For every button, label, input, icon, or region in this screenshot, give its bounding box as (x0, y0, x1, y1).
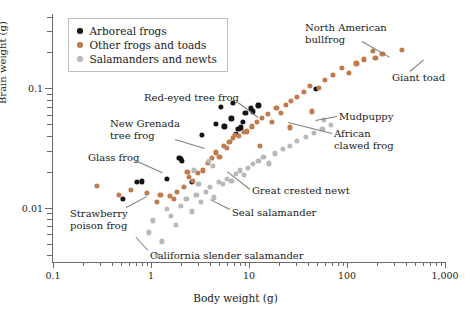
data-point (373, 55, 378, 60)
data-point (328, 122, 333, 127)
data-point (259, 115, 264, 120)
x-axis-minor-tick (245, 262, 246, 266)
data-point (229, 116, 234, 121)
data-point (346, 70, 351, 75)
data-point (213, 121, 218, 126)
annotation-african-clawed-frog: African clawed frog (334, 128, 394, 151)
data-point (323, 77, 328, 82)
legend-item-label: Arboreal frogs (90, 25, 167, 37)
x-axis-minor-tick (343, 262, 344, 266)
x-axis-tick-label: 100 (322, 270, 372, 281)
y-axis-minor-tick (47, 244, 52, 245)
x-axis-major-tick (53, 262, 54, 268)
x-axis-minor-tick (142, 262, 143, 266)
data-point (261, 154, 266, 159)
x-axis-minor-tick (121, 262, 122, 266)
x-axis-minor-tick (279, 262, 280, 266)
data-point (256, 158, 261, 163)
x-axis-minor-tick (112, 262, 113, 266)
data-point (184, 196, 189, 201)
legend-marker-icon (77, 42, 83, 48)
data-point (245, 129, 250, 134)
y-axis-minor-tick (47, 151, 52, 152)
data-point (278, 111, 283, 116)
data-point (179, 158, 184, 163)
annotation-strawberry-poison-frog: Strawberry poison frog (70, 208, 128, 231)
x-axis-minor-tick (394, 262, 395, 266)
annotation-red-eyed-tree-frog: Red-eyed tree frog (144, 92, 239, 104)
data-point (307, 83, 312, 88)
y-axis-minor-tick (47, 31, 52, 32)
data-point (128, 188, 133, 193)
data-point (354, 61, 359, 66)
data-point (217, 154, 222, 159)
data-point (258, 143, 263, 148)
data-point (273, 151, 278, 156)
x-axis-minor-tick (436, 262, 437, 266)
x-axis-minor-tick (129, 262, 130, 266)
data-point (168, 213, 173, 218)
data-point (330, 72, 335, 77)
x-axis-minor-tick (198, 262, 199, 266)
y-axis-minor-tick (47, 115, 52, 116)
y-axis-tick-label: 0.01 (3, 202, 43, 213)
data-point (160, 239, 165, 244)
data-point (229, 178, 234, 183)
y-axis-minor-tick (47, 107, 52, 108)
data-point (301, 90, 306, 95)
data-point (207, 184, 212, 189)
data-point (158, 192, 163, 197)
x-axis-minor-tick (423, 262, 424, 266)
x-axis-spine (52, 262, 446, 263)
x-axis-minor-tick (181, 262, 182, 266)
data-point (289, 98, 294, 103)
x-axis-minor-tick (317, 262, 318, 266)
annotation-glass-frog: Glass frog (88, 152, 140, 164)
x-axis-major-tick (249, 262, 250, 268)
data-point (222, 124, 227, 129)
legend-marker-icon (77, 28, 83, 34)
x-axis-minor-tick (415, 262, 416, 266)
x-axis-minor-tick (406, 262, 407, 266)
x-axis-minor-tick (234, 262, 235, 266)
data-point (220, 181, 225, 186)
data-point (241, 172, 246, 177)
data-point (189, 209, 194, 214)
legend-item-label: Salamanders and newts (90, 53, 217, 65)
data-point (171, 196, 176, 201)
x-axis-minor-tick (430, 262, 431, 266)
data-point (280, 146, 285, 151)
x-axis-minor-tick (332, 262, 333, 266)
y-axis-minor-tick (47, 226, 52, 227)
data-point (150, 218, 155, 223)
data-point (210, 163, 215, 168)
y-axis-major-tick (45, 208, 52, 209)
data-point (139, 179, 144, 184)
data-point (287, 125, 292, 130)
data-point (240, 120, 245, 125)
x-axis-minor-tick (338, 262, 339, 266)
x-axis-tick-label: 1,000 (420, 270, 470, 281)
x-axis-minor-tick (227, 262, 228, 266)
data-point (309, 109, 314, 114)
chart-root: Brain weight (g) Body weight (g) Arborea… (0, 0, 471, 323)
y-axis-minor-tick (47, 255, 52, 256)
data-point (196, 181, 201, 186)
x-axis-minor-tick (100, 262, 101, 266)
data-point (295, 139, 300, 144)
x-axis-minor-tick (377, 262, 378, 266)
annotation-mudpuppy: Mudpuppy (339, 111, 393, 123)
legend-item-label: Other frogs and toads (90, 39, 207, 51)
y-axis-major-tick (45, 88, 52, 89)
x-axis-minor-tick (308, 262, 309, 266)
legend-item: Salamanders and newts (77, 52, 217, 66)
y-axis-minor-tick (47, 94, 52, 95)
data-point (274, 105, 279, 110)
data-point (178, 203, 183, 208)
data-point (250, 124, 255, 129)
data-point (266, 161, 271, 166)
x-axis-minor-tick (219, 262, 220, 266)
x-axis-minor-tick (441, 262, 442, 266)
data-point (175, 189, 180, 194)
x-axis-minor-tick (240, 262, 241, 266)
